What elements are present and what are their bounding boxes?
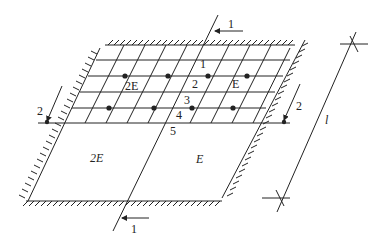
node-label-3: 3 bbox=[184, 93, 190, 107]
section-label-top: 1 bbox=[228, 17, 234, 31]
region-label-mesh-right: E bbox=[232, 77, 239, 91]
node-label-2: 2 bbox=[192, 77, 198, 91]
left-hatch bbox=[19, 51, 97, 198]
node-label-1: 1 bbox=[200, 57, 206, 71]
region-label-lower-right: E bbox=[195, 152, 204, 166]
bottom-hatch bbox=[23, 201, 220, 206]
node-label-4: 4 bbox=[176, 108, 182, 122]
node-label-5: 5 bbox=[170, 124, 176, 138]
region-label-mesh-left: 2E bbox=[125, 79, 138, 93]
region-label-lower-left: 2E bbox=[90, 151, 104, 165]
dimension-label: l bbox=[325, 113, 329, 127]
top-hatch bbox=[108, 40, 293, 45]
mesh-slanted-lines bbox=[85, 45, 290, 123]
left-boundary bbox=[28, 48, 100, 201]
mesh-nodes bbox=[45, 73, 286, 124]
section-label-bottom: 1 bbox=[131, 222, 137, 236]
section-label-left: 2 bbox=[37, 104, 43, 118]
dimension-line bbox=[277, 32, 356, 212]
section-label-right: 2 bbox=[296, 99, 302, 113]
diagram-canvas: 2E E 2E E 1 2 3 4 5 1 1 2 2 l bbox=[0, 0, 385, 246]
section-2-left-arrow bbox=[47, 86, 62, 121]
